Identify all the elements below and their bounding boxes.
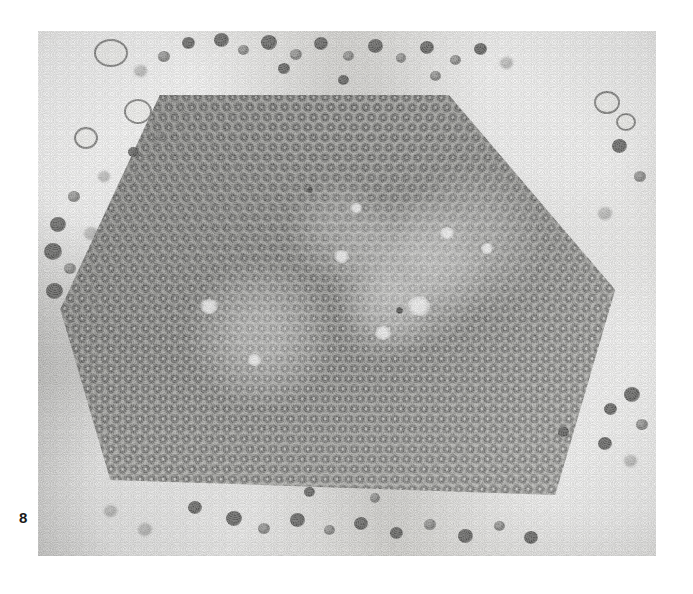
figure-number-label: 8 — [19, 510, 27, 525]
page-canvas: 8 — [0, 0, 693, 594]
micrograph-plate — [38, 31, 656, 556]
